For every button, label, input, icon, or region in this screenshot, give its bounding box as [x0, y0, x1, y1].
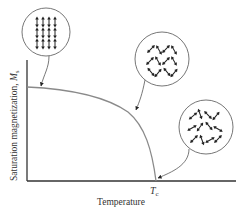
connector-arrow-1: [41, 56, 49, 86]
inset-partially-aligned-dipoles: [135, 32, 189, 110]
inset-random-dipoles: [158, 100, 233, 178]
connector-arrow-3: [158, 149, 189, 178]
critical-temperature-label: Tc: [150, 185, 159, 198]
y-axis-label: Saturation magnetization, Ms: [9, 70, 20, 181]
x-axis-label: Temperature: [97, 197, 145, 207]
magnetization-diagram: Saturation magnetization, Ms Tc Temperat…: [0, 0, 244, 217]
magnetization-curve: [27, 87, 156, 181]
inset-aligned-dipoles: [22, 8, 70, 86]
connector-arrow-2: [136, 80, 145, 110]
